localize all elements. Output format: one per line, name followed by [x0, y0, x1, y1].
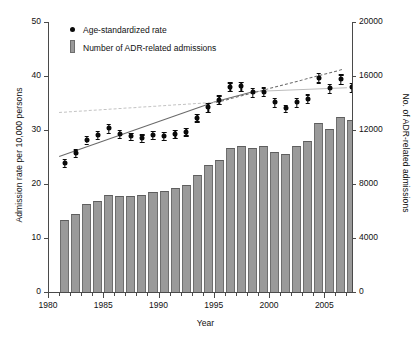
x-tick-major-1990: [159, 293, 160, 298]
x-tick-minor-2002: [291, 293, 292, 296]
y-left-tick-label-50: 50: [15, 16, 41, 26]
y-right-tick-12000: [352, 130, 356, 131]
x-tick-minor-1999: [258, 293, 259, 296]
error-cap-bottom-1988: [140, 142, 145, 143]
x-tick-major-1985: [103, 293, 104, 298]
error-cap-bottom-2002: [294, 107, 299, 108]
legend-label-rate: Age-standardized rate: [83, 25, 167, 35]
bar-1982: [71, 214, 80, 292]
x-tick-label-1990: 1990: [139, 300, 179, 310]
error-cap-bottom-2005: [328, 93, 333, 94]
bar-2006: [336, 117, 345, 292]
data-point-1990: [162, 133, 167, 138]
bar-1994: [204, 165, 213, 292]
error-cap-bottom-1989: [151, 139, 156, 140]
bar-1990: [160, 191, 169, 292]
error-cap-bottom-1981: [62, 167, 67, 168]
data-point-1997: [239, 84, 244, 89]
bar-1983: [82, 204, 91, 292]
bar-1995: [215, 160, 224, 292]
error-cap-bottom-1995: [217, 104, 222, 105]
y-right-tick-label-12000: 12000: [359, 124, 395, 134]
y-left-tick-40: [44, 76, 48, 77]
y-right-tick-16000: [352, 76, 356, 77]
x-tick-minor-1981: [59, 293, 60, 296]
error-cap-bottom-2006: [339, 84, 344, 85]
y-right-tick-4000: [352, 238, 356, 239]
data-point-1998: [250, 90, 255, 95]
trendline-joinpoint-segment-1: [59, 101, 216, 157]
error-cap-bottom-2004: [317, 82, 322, 83]
error-cap-bottom-1996: [228, 91, 233, 92]
error-cap-bottom-1993: [195, 121, 200, 122]
x-tick-label-2000: 2000: [249, 300, 289, 310]
legend-point-icon: [70, 27, 75, 32]
bar-1996: [226, 148, 235, 292]
data-point-1991: [173, 131, 178, 136]
x-tick-major-2000: [269, 293, 270, 298]
data-point-1985: [106, 126, 111, 131]
error-cap-bottom-2000: [272, 107, 277, 108]
data-point-2000: [272, 100, 277, 105]
bar-1984: [93, 201, 102, 292]
x-tick-major-1995: [214, 293, 215, 298]
data-point-1993: [195, 115, 200, 120]
x-tick-minor-1991: [170, 293, 171, 296]
y-axis-left-spine: [48, 22, 49, 293]
error-cap-bottom-1994: [206, 112, 211, 113]
bar-2005: [325, 129, 334, 292]
x-tick-major-2005: [324, 293, 325, 298]
legend-bar-icon: [70, 40, 75, 53]
y-right-tick-20000: [352, 22, 356, 23]
x-axis-title: Year: [0, 318, 411, 328]
y-left-tick-label-40: 40: [15, 70, 41, 80]
error-cap-bottom-1986: [118, 138, 123, 139]
y-left-tick-30: [44, 130, 48, 131]
error-cap-bottom-1987: [129, 140, 134, 141]
data-point-2002: [294, 100, 299, 105]
data-point-2006: [338, 77, 343, 82]
data-point-1987: [128, 134, 133, 139]
data-point-1986: [117, 131, 122, 136]
bar-1986: [115, 196, 124, 292]
y-left-tick-50: [44, 22, 48, 23]
x-tick-minor-1998: [247, 293, 248, 296]
bar-2002: [292, 146, 301, 292]
x-tick-minor-1983: [81, 293, 82, 296]
bar-1985: [104, 195, 113, 292]
y-axis-right-title: No. of ADR-related admissions: [401, 38, 411, 268]
y-axis-right-spine: [352, 22, 353, 293]
bar-1981: [60, 220, 69, 292]
y-right-tick-label-16000: 16000: [359, 70, 395, 80]
data-point-1983: [84, 137, 89, 142]
bar-1987: [126, 196, 135, 292]
error-cap-top-2004: [317, 73, 322, 74]
y-right-tick-label-20000: 20000: [359, 16, 395, 26]
data-point-2004: [316, 75, 321, 80]
x-tick-minor-2007: [346, 293, 347, 296]
legend-label-bars: Number of ADR-related admissions: [83, 43, 216, 53]
error-cap-bottom-1997: [239, 91, 244, 92]
data-point-1996: [228, 84, 233, 89]
x-tick-minor-1992: [181, 293, 182, 296]
x-tick-label-1995: 1995: [194, 300, 234, 310]
y-left-tick-label-20: 20: [15, 178, 41, 188]
data-point-2001: [283, 106, 288, 111]
bar-1998: [248, 148, 257, 292]
y-left-tick-20: [44, 184, 48, 185]
bar-1991: [171, 188, 180, 292]
data-point-1989: [151, 132, 156, 137]
error-cap-bottom-1992: [184, 135, 189, 136]
error-cap-bottom-1999: [261, 96, 266, 97]
y-right-tick-8000: [352, 184, 356, 185]
y-right-tick-0: [352, 292, 356, 293]
x-tick-label-2005: 2005: [304, 300, 344, 310]
data-point-1992: [184, 129, 189, 134]
x-tick-minor-1997: [236, 293, 237, 296]
bar-2004: [314, 123, 323, 292]
bar-1997: [237, 146, 246, 292]
error-cap-top-2006: [339, 74, 344, 75]
data-point-2003: [305, 96, 310, 101]
x-tick-minor-1987: [125, 293, 126, 296]
y-left-tick-label-0: 0: [15, 286, 41, 296]
